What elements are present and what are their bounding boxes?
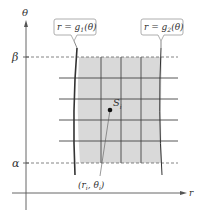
curve-g1 [74, 48, 77, 175]
callout-g1-prefix: r = g [57, 22, 81, 32]
callout-g2-prefix: r = g [144, 22, 168, 32]
beta-label: β [11, 51, 18, 64]
theta-axis-label: θ [22, 7, 28, 18]
r-axis-label: r [189, 188, 194, 198]
callout-g2-suffix: (θ) [171, 22, 184, 32]
callout-g2: r = g2(θ) [141, 19, 184, 48]
theta-axis-arrow-icon [24, 20, 28, 27]
svg-text:r = g2(θ): r = g2(θ) [144, 22, 184, 33]
alpha-label: α [12, 157, 20, 170]
point-coordinate-label: (ri, θi) [78, 180, 105, 191]
polar-region-diagram: θ r β α r = g1(θ) r = g2(θ) Si (ri, θi) [0, 0, 200, 220]
callout-g1: r = g1(θ) [54, 19, 97, 48]
svg-text:r = g1(θ): r = g1(θ) [57, 22, 97, 33]
callout-g1-suffix: (θ) [84, 22, 97, 32]
r-axis-arrow-icon [180, 191, 187, 195]
sample-point [108, 108, 113, 113]
shaded-region [78, 57, 162, 163]
